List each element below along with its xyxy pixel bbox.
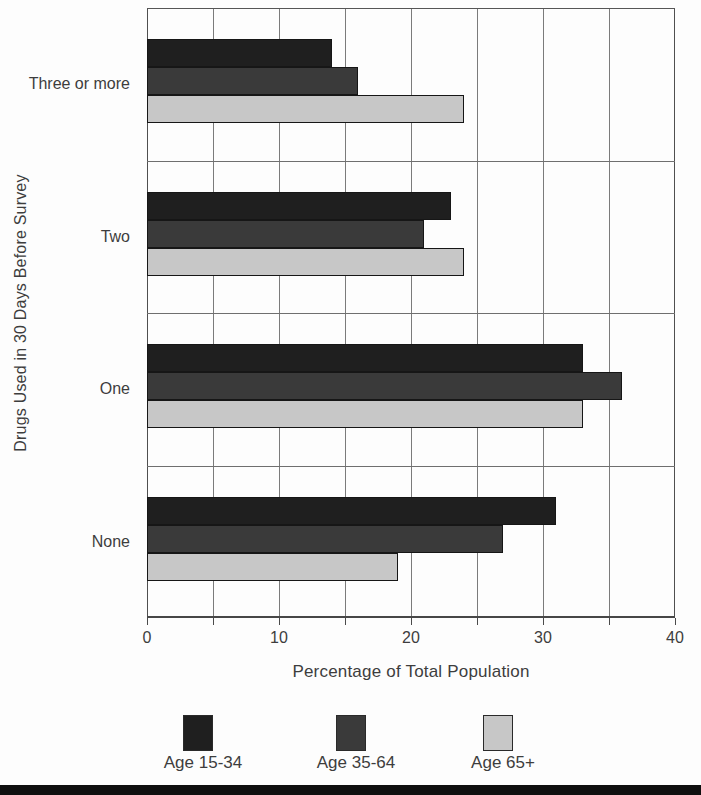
x-axis-tick — [345, 618, 346, 625]
x-axis-tick — [675, 618, 676, 625]
bar-two-age-15-34 — [147, 192, 451, 220]
gridline-horizontal — [147, 8, 675, 9]
x-axis-tick — [147, 618, 148, 625]
x-axis-tick — [279, 618, 280, 625]
bar-two-age-35-64 — [147, 220, 424, 248]
plot-area — [147, 8, 675, 618]
bar-three-or-more-age-65+ — [147, 95, 464, 123]
legend-label: Age 15-34 — [164, 753, 242, 773]
bar-three-or-more-age-35-64 — [147, 67, 358, 95]
bar-one-age-65+ — [147, 400, 583, 428]
x-tick-label: 30 — [534, 629, 552, 647]
legend-label: Age 65+ — [471, 753, 535, 773]
x-tick-label: 40 — [666, 629, 684, 647]
gridline-horizontal — [147, 466, 675, 467]
bar-two-age-65+ — [147, 248, 464, 276]
x-axis-tick — [543, 618, 544, 625]
x-axis-tick — [477, 618, 478, 625]
legend-label: Age 35-64 — [317, 753, 395, 773]
page-bottom-rule — [0, 785, 701, 795]
x-axis-tick — [213, 618, 214, 625]
bar-three-or-more-age-15-34 — [147, 39, 332, 67]
gridline-horizontal — [147, 313, 675, 314]
bar-none-age-35-64 — [147, 525, 503, 553]
category-label: Two — [101, 228, 130, 246]
legend-swatch-age-65+ — [483, 715, 513, 751]
gridline-horizontal — [147, 161, 675, 162]
bar-none-age-15-34 — [147, 497, 556, 525]
category-label: None — [92, 533, 130, 551]
legend-swatch-age-15-34 — [183, 715, 213, 751]
bar-one-age-15-34 — [147, 344, 583, 372]
category-axis-labels: Three or moreTwoOneNone — [0, 8, 130, 618]
x-axis-title: Percentage of Total Population — [147, 662, 675, 682]
category-label: Three or more — [29, 75, 130, 93]
x-tick-label: 0 — [143, 629, 152, 647]
bar-one-age-35-64 — [147, 372, 622, 400]
legend-swatch-age-35-64 — [336, 715, 366, 751]
category-label: One — [100, 380, 130, 398]
scanned-chart-page: Drugs Used in 30 Days Before Survey Thre… — [0, 0, 701, 795]
x-axis-tick — [411, 618, 412, 625]
x-axis-tick — [609, 618, 610, 625]
x-tick-label: 10 — [270, 629, 288, 647]
bar-none-age-65+ — [147, 553, 398, 581]
x-tick-label: 20 — [402, 629, 420, 647]
